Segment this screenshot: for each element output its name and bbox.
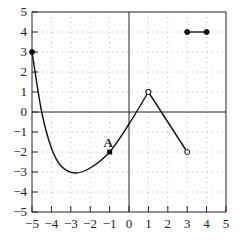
closed-endpoint [30, 50, 35, 55]
function-graph: −5−4−3−2−1012345543210−1−2−3−4−5 A [0, 0, 240, 240]
y-tick-label: −2 [13, 144, 27, 159]
x-tick-label: 0 [126, 216, 133, 231]
closed-endpoint [185, 30, 190, 35]
y-tick-label: 0 [21, 104, 28, 119]
x-tick-label: −1 [103, 216, 117, 231]
x-tick-label: −3 [64, 216, 78, 231]
x-tick-label: 4 [203, 216, 210, 231]
y-tick-label: 3 [21, 44, 28, 59]
axis-ticks: −5−4−3−2−1012345543210−1−2−3−4−5 [13, 4, 229, 231]
x-tick-label: 2 [165, 216, 172, 231]
open-endpoint [185, 150, 190, 155]
x-tick-label: 1 [145, 216, 152, 231]
y-tick-label: −1 [13, 124, 27, 139]
x-tick-label: 3 [184, 216, 191, 231]
y-tick-label: −4 [13, 184, 27, 199]
point-label-a: A [104, 135, 114, 150]
x-tick-label: −2 [83, 216, 97, 231]
x-tick-label: −4 [44, 216, 58, 231]
y-tick-label: −3 [13, 164, 27, 179]
closed-endpoint [204, 30, 209, 35]
open-endpoint [146, 90, 151, 95]
y-tick-label: 2 [21, 64, 28, 79]
x-tick-label: 5 [223, 216, 230, 231]
y-tick-label: 1 [21, 84, 28, 99]
point-a-marker [107, 150, 112, 155]
y-tick-label: −5 [13, 204, 27, 219]
x-tick-label: −5 [25, 216, 39, 231]
y-tick-label: 5 [21, 4, 28, 19]
y-tick-label: 4 [21, 24, 28, 39]
